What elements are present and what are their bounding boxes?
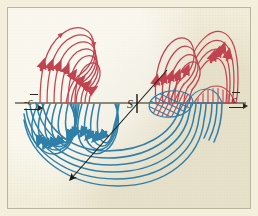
figure-plate: -c c S <box>7 7 251 209</box>
figure-container: -c c S <box>0 0 258 216</box>
source-label: S <box>127 98 133 110</box>
c-vector-overbar <box>232 92 240 93</box>
c-vector-label: c <box>232 94 237 105</box>
minus-c-arrow-head <box>38 105 43 111</box>
c-vector-text: c <box>232 93 237 105</box>
minus-c-vector-text: -c <box>24 95 33 107</box>
c-arrow-head <box>243 103 248 109</box>
minus-c-vector-overbar <box>30 94 38 95</box>
magnetic-field-arcs-outer-right <box>204 103 222 142</box>
minus-c-vector-label: -c <box>24 96 33 107</box>
